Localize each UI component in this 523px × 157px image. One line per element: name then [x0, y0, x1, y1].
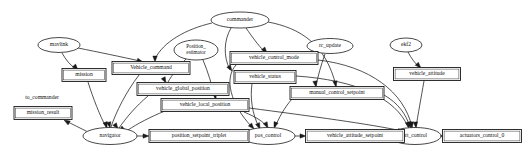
node-label: vehicle_attitude_setpoint [327, 132, 384, 138]
node-navigator[interactable]: navigator [83, 128, 137, 145]
node-label: mission_result [27, 109, 60, 115]
node-label: actuators_control_0 [460, 132, 505, 138]
edge-vehicle_status-to-pos_control [251, 84, 262, 130]
nodes-layer: commandermavlinkPosition_estimatorrc_upd… [14, 12, 522, 145]
node-vehicle_global_position[interactable]: vehicle_global_position [137, 83, 229, 96]
node-actuators_control_0[interactable]: actuators_control_0 [443, 130, 522, 143]
edge-navigator-to-position_setpoint_triplet [137, 134, 149, 138]
edge-Vehicle_command-to-navigator [107, 75, 139, 128]
node-label: commander [227, 16, 254, 22]
node-label: rc_update [319, 42, 342, 48]
node-label: pos_control [255, 132, 282, 138]
node-label: vehicle_local_position [180, 101, 231, 107]
node-label: vehicle_global_position [156, 85, 210, 91]
edge-vehicle_global_position-to-navigator [113, 96, 148, 130]
node-vehicle_control_mode[interactable]: vehicle_control_mode [230, 52, 318, 65]
edge-mission-to-navigator [88, 82, 109, 129]
node-label: vehicle_attitude [409, 70, 445, 76]
edge-vehicle_attitude-to-att_control [413, 81, 424, 128]
node-label: position_setpoint_triplet [172, 132, 227, 138]
free-label-to_commander: to_commander [25, 94, 59, 100]
node-label: att_control [403, 132, 428, 138]
edge-pos_control-to-vehicle_attitude_setpoint [295, 134, 306, 138]
node-label: vehicle_control_mode [249, 54, 300, 60]
edge-manual_control_setpoint-to-pos_control [272, 99, 292, 129]
node-vehicle_attitude_setpoint[interactable]: vehicle_attitude_setpoint [306, 130, 405, 143]
edge-commander-to-vehicle_control_mode [246, 28, 269, 54]
node-label: manual_control_setpoint [309, 89, 365, 95]
node-position_estimator[interactable]: Position_estimator [174, 40, 218, 60]
node-mission[interactable]: mission [62, 69, 106, 82]
node-mavlink[interactable]: mavlink [38, 38, 80, 53]
node-vehicle_local_position[interactable]: vehicle_local_position [161, 99, 249, 112]
free-labels-layer: to_commander [25, 94, 59, 100]
arrow-head-icon [143, 134, 149, 138]
edge-vehicle_local_position-to-pos_control [244, 112, 270, 129]
edge-commander-to-vehicle_status [225, 28, 234, 72]
node-vehicle_attitude[interactable]: vehicle_attitude [394, 68, 461, 81]
edge-navigator-to-mission_result [63, 118, 88, 132]
node-label: Vehicle_command [130, 64, 172, 70]
node-label: mavlink [50, 41, 69, 47]
node-label: navigator [99, 132, 120, 138]
node-label: Position_estimator [186, 43, 206, 56]
node-vehicle_status[interactable]: vehicle_status [234, 71, 296, 84]
node-commander[interactable]: commander [211, 12, 269, 28]
node-ekf2[interactable]: ekf2 [390, 38, 422, 52]
node-label: mission [75, 71, 93, 77]
node-Vehicle_command[interactable]: Vehicle_command [112, 62, 190, 75]
node-label: vehicle_status [249, 73, 281, 79]
edge-ekf2-to-vehicle_attitude [408, 52, 423, 70]
node-mission_result[interactable]: mission_result [14, 107, 72, 120]
node-manual_control_setpoint[interactable]: manual_control_setpoint [290, 87, 384, 100]
diagram-canvas: commandermavlinkPosition_estimatorrc_upd… [0, 0, 523, 157]
node-label: ekf2 [401, 41, 411, 47]
node-position_setpoint_triplet[interactable]: position_setpoint_triplet [149, 130, 249, 143]
module-topic-graph: commandermavlinkPosition_estimatorrc_upd… [0, 0, 523, 157]
